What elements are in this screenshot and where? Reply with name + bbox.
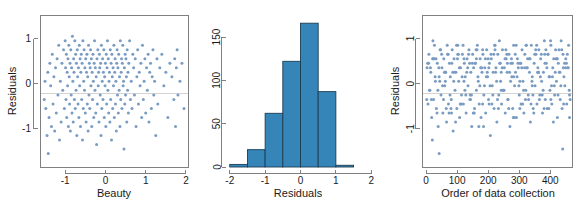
data-point <box>557 62 560 65</box>
data-point <box>442 57 445 60</box>
data-points-group <box>425 39 571 155</box>
data-point <box>528 71 531 74</box>
data-point <box>84 111 87 114</box>
data-point <box>550 102 553 105</box>
data-point <box>90 57 93 60</box>
data-point <box>449 75 452 78</box>
data-point <box>548 89 551 92</box>
data-point <box>151 75 154 78</box>
data-point <box>552 120 555 123</box>
data-point <box>469 98 472 101</box>
data-point <box>151 48 154 51</box>
data-point <box>486 71 489 74</box>
data-point <box>510 57 513 60</box>
data-point <box>468 62 471 65</box>
data-point <box>440 66 443 69</box>
data-point <box>155 57 158 60</box>
data-point <box>46 134 49 137</box>
data-point <box>67 125 70 128</box>
data-point <box>529 120 532 123</box>
data-point <box>108 71 111 74</box>
data-point <box>454 120 457 123</box>
data-point <box>489 84 492 87</box>
data-point <box>540 53 543 56</box>
data-point <box>113 116 116 119</box>
data-point <box>166 116 169 119</box>
data-point <box>98 66 101 69</box>
data-point <box>114 102 117 105</box>
y-tick-label: 50 <box>212 118 223 130</box>
data-point <box>503 57 506 60</box>
data-point <box>557 93 560 96</box>
data-point <box>483 84 486 87</box>
histogram-bar <box>301 23 319 167</box>
data-point <box>489 53 492 56</box>
data-point <box>110 53 113 56</box>
data-point <box>445 107 448 110</box>
data-point <box>104 62 107 65</box>
data-point <box>472 66 475 69</box>
data-point <box>84 57 87 60</box>
data-point <box>124 57 127 60</box>
data-point <box>496 98 499 101</box>
y-axis-order: -101 <box>406 35 420 133</box>
data-point <box>92 80 95 83</box>
data-point <box>466 57 469 60</box>
data-point <box>566 53 569 56</box>
data-point <box>133 93 136 96</box>
x-tick-label: 200 <box>480 175 497 186</box>
data-point <box>87 44 90 47</box>
data-point <box>481 102 484 105</box>
data-point <box>531 75 534 78</box>
data-point <box>178 80 181 83</box>
data-point <box>508 71 511 74</box>
data-point <box>451 48 454 51</box>
data-point <box>472 111 475 114</box>
data-point <box>137 102 140 105</box>
data-point <box>145 66 148 69</box>
data-point <box>144 111 147 114</box>
data-point <box>70 93 73 96</box>
data-point <box>154 134 157 137</box>
data-point <box>461 75 464 78</box>
data-point <box>91 98 94 101</box>
data-point <box>88 62 91 65</box>
data-point <box>75 134 78 137</box>
data-point <box>554 71 557 74</box>
data-point <box>51 53 54 56</box>
data-point <box>557 48 560 51</box>
data-point <box>492 53 495 56</box>
data-point <box>433 44 436 47</box>
data-point <box>523 66 526 69</box>
x-tick-label: 1 <box>333 175 339 186</box>
data-point <box>471 53 474 56</box>
data-point <box>506 98 509 101</box>
data-point <box>563 84 566 87</box>
data-point <box>44 80 47 83</box>
data-point <box>451 71 454 74</box>
data-point <box>463 89 466 92</box>
data-point <box>131 107 134 110</box>
data-point <box>543 53 546 56</box>
data-point <box>530 80 533 83</box>
data-point <box>130 80 133 83</box>
data-point <box>516 75 519 78</box>
data-point <box>497 107 500 110</box>
panel-histogram-of-residuals: 050100150 -2-1012 Residuals <box>193 0 386 210</box>
y-tick-label: 1 <box>25 33 31 44</box>
data-point <box>516 57 519 60</box>
data-point <box>518 80 521 83</box>
data-point <box>143 57 146 60</box>
data-point <box>542 71 545 74</box>
data-point <box>562 102 565 105</box>
data-point <box>71 80 74 83</box>
data-point <box>447 53 450 56</box>
data-point <box>72 120 75 123</box>
data-point <box>477 125 480 128</box>
data-point <box>135 125 138 128</box>
data-point <box>455 107 458 110</box>
data-point <box>535 102 538 105</box>
data-point <box>544 48 547 51</box>
data-point <box>131 53 134 56</box>
data-point <box>490 102 493 105</box>
